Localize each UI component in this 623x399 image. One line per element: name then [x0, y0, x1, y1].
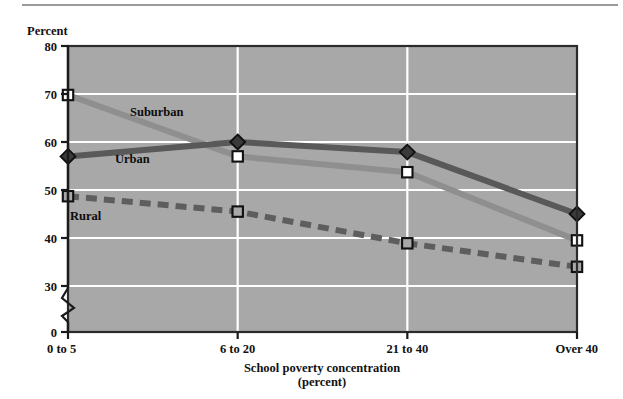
- x-axis-category-labels: 0 to 56 to 2021 to 40Over 40: [47, 342, 598, 356]
- figure-container: 8070605040300 0 to 56 to 2021 to 40Over …: [0, 0, 623, 399]
- y-tick-label: 50: [45, 184, 58, 198]
- series-label-urban: Urban: [115, 152, 150, 166]
- x-axis-subtitle: (percent): [298, 375, 346, 389]
- data-point-suburban-2: [402, 167, 412, 177]
- x-category-label-1: 6 to 20: [220, 342, 255, 356]
- x-category-label-3: Over 40: [556, 342, 598, 356]
- y-tick-label: 60: [45, 136, 58, 150]
- y-tick-label: 80: [45, 40, 58, 54]
- y-axis-title: Percent: [27, 24, 69, 38]
- data-point-rural-1: [233, 206, 243, 216]
- y-tick-label: 40: [45, 232, 58, 246]
- line-chart: 8070605040300 0 to 56 to 2021 to 40Over …: [0, 0, 623, 399]
- series-label-rural: Rural: [70, 209, 102, 223]
- x-axis-title: School poverty concentration: [244, 361, 400, 375]
- series-label-suburban: Suburban: [130, 105, 184, 119]
- y-tick-label: 0: [51, 326, 57, 340]
- data-point-suburban-1: [233, 151, 243, 161]
- y-axis-tick-labels: 8070605040300: [45, 40, 58, 340]
- data-point-rural-2: [402, 238, 412, 248]
- x-category-label-0: 0 to 5: [47, 342, 76, 356]
- x-category-label-2: 21 to 40: [386, 342, 428, 356]
- y-tick-label: 70: [45, 88, 58, 102]
- y-tick-label: 30: [45, 280, 58, 294]
